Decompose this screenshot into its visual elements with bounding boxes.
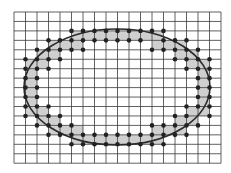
grid-dot <box>184 38 189 43</box>
grid-dot <box>207 114 212 119</box>
grid-dot <box>23 66 28 71</box>
grid-dot <box>92 142 97 147</box>
grid-dot <box>150 29 155 34</box>
grid-dot <box>196 104 201 109</box>
grid-dot <box>35 95 40 100</box>
grid-dot <box>69 142 74 147</box>
grid-dot <box>173 114 178 119</box>
grid-dot <box>138 133 143 138</box>
grid-dot <box>46 38 51 43</box>
grid-dot <box>35 114 40 119</box>
grid-dot <box>46 66 51 71</box>
grid-dot <box>173 133 178 138</box>
grid-dot <box>184 123 189 128</box>
grid-dot <box>184 133 189 138</box>
ellipse-raster-diagram <box>0 0 231 173</box>
grid-dot <box>161 133 166 138</box>
grid-dot <box>127 38 132 43</box>
grid-dot <box>46 104 51 109</box>
grid-dot <box>196 57 201 62</box>
grid-dot <box>23 104 28 109</box>
grid-dot <box>115 142 120 147</box>
grid-dot <box>58 114 63 119</box>
grid-dot <box>184 48 189 53</box>
grid-dot <box>150 133 155 138</box>
grid-dot <box>138 142 143 147</box>
grid-dot <box>207 85 212 90</box>
grid-dot <box>23 57 28 62</box>
grid-dot <box>173 57 178 62</box>
grid-dot <box>150 48 155 53</box>
grid-dot <box>69 133 74 138</box>
grid-dot <box>92 38 97 43</box>
grid-dot <box>46 123 51 128</box>
grid-dot <box>35 104 40 109</box>
grid-dot <box>138 38 143 43</box>
grid-dot <box>92 29 97 34</box>
grid-dot <box>138 29 143 34</box>
grid-dot <box>46 57 51 62</box>
grid-dot <box>104 38 109 43</box>
grid-dot <box>35 66 40 71</box>
grid-dot <box>35 76 40 81</box>
grid-dot <box>150 123 155 128</box>
grid-dot <box>115 38 120 43</box>
grid-dot <box>58 57 63 62</box>
grid-dot <box>161 123 166 128</box>
grid-dot <box>184 114 189 119</box>
grid-dot <box>161 38 166 43</box>
grid-dot <box>161 29 166 34</box>
grid-dot <box>58 123 63 128</box>
grid-dot <box>58 38 63 43</box>
grid-dot <box>196 66 201 71</box>
grid-dot <box>104 29 109 34</box>
grid-dot <box>207 104 212 109</box>
grid-dot <box>46 133 51 138</box>
grid-dot <box>81 38 86 43</box>
grid-dot <box>92 133 97 138</box>
grid-dot <box>23 85 28 90</box>
grid-dot <box>81 48 86 53</box>
grid-dot <box>196 95 201 100</box>
grid-dot <box>104 133 109 138</box>
grid-dot <box>184 57 189 62</box>
grid-dot <box>161 142 166 147</box>
grid-dot <box>46 114 51 119</box>
grid-dot <box>161 48 166 53</box>
grid-dot <box>115 29 120 34</box>
grid-dot <box>81 142 86 147</box>
grid-dot <box>69 48 74 53</box>
grid-dot <box>184 66 189 71</box>
grid-dot <box>58 48 63 53</box>
grid-dot <box>150 142 155 147</box>
grid-dot <box>173 38 178 43</box>
grid-dot <box>196 85 201 90</box>
grid-dot <box>127 133 132 138</box>
grid-dot <box>173 123 178 128</box>
grid-dot <box>69 38 74 43</box>
grid-dot <box>207 95 212 100</box>
grid-dot <box>81 133 86 138</box>
grid-dot <box>23 114 28 119</box>
grid-dot <box>127 29 132 34</box>
grid-dot <box>196 48 201 53</box>
grid-dot <box>196 76 201 81</box>
grid-dot <box>207 57 212 62</box>
grid-dot <box>69 123 74 128</box>
grid-dot <box>58 133 63 138</box>
grid-dot <box>207 66 212 71</box>
grid-dot <box>46 48 51 53</box>
grid-dot <box>184 104 189 109</box>
grid-dot <box>196 123 201 128</box>
grid-dot <box>173 48 178 53</box>
grid-dot <box>207 76 212 81</box>
grid-dot <box>81 29 86 34</box>
grid-dot <box>115 133 120 138</box>
grid-dot <box>104 142 109 147</box>
grid-dot <box>23 95 28 100</box>
grid-dot <box>35 57 40 62</box>
grid-dot <box>69 29 74 34</box>
grid-dot <box>35 123 40 128</box>
grid-dot <box>127 142 132 147</box>
grid-dot <box>35 85 40 90</box>
